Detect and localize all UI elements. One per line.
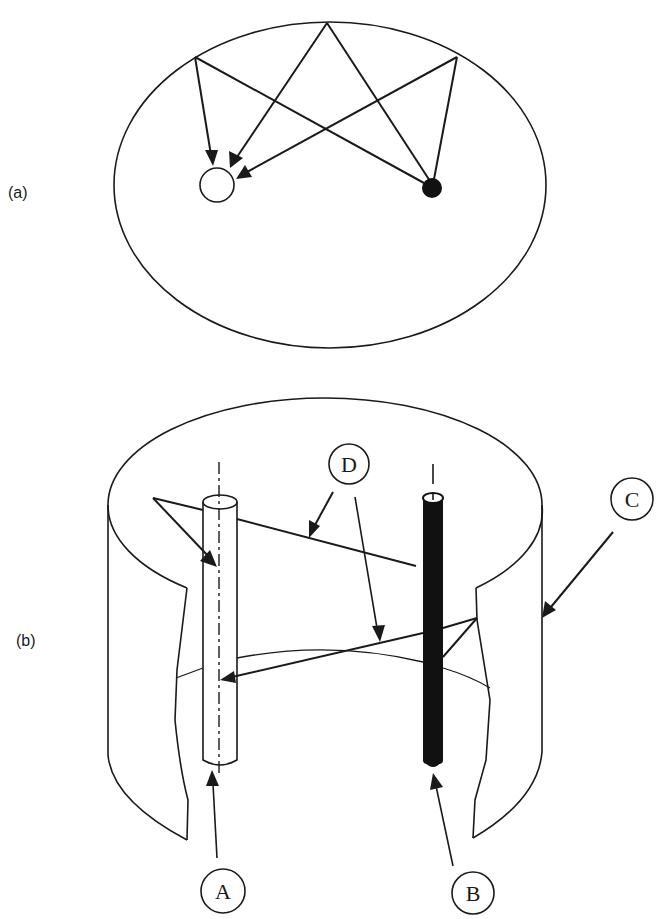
rod-a-white <box>203 462 237 775</box>
ray-lower-reflected-b <box>232 633 423 677</box>
arrowhead-icon <box>205 150 218 166</box>
cylinder-top-rim-left-lower <box>108 505 187 588</box>
arrowhead-icon <box>372 625 385 642</box>
ray-right-to-source <box>434 57 457 179</box>
ray-left-to-receiver <box>195 57 211 155</box>
cylinder-outer-wall-right <box>473 505 542 838</box>
interior-floor-arc <box>237 650 423 662</box>
arrowhead-icon <box>236 165 252 179</box>
callout-c-leader <box>551 532 613 607</box>
room-outline-ellipse <box>114 22 546 348</box>
arrowhead-icon <box>229 151 243 168</box>
callout-a-label: A <box>215 879 231 904</box>
arrowhead-icon <box>206 770 219 786</box>
panel-a-diagram <box>114 22 546 348</box>
rod-b-black <box>423 464 443 767</box>
cutaway-edge-left <box>175 588 188 840</box>
interior-floor-arc-right <box>443 668 490 688</box>
source-black-dot <box>422 178 442 198</box>
callout-a-leader <box>213 784 217 858</box>
ray-upper-reflected <box>153 498 210 558</box>
cylinder-top-rim-right-lower <box>476 505 542 588</box>
ray-right-to-receiver <box>247 57 457 172</box>
panel-b-diagram: D C A B <box>108 398 653 914</box>
cylinder-top-rim <box>108 398 542 505</box>
interior-floor-arc-left <box>176 668 203 678</box>
cylinder-outer-wall-left <box>108 505 187 840</box>
receiver-white-circle <box>200 168 234 202</box>
ray-upper-to-wall <box>153 498 203 510</box>
callout-b-label: B <box>466 881 481 906</box>
callout-c-label: C <box>625 487 640 512</box>
figure-canvas: D C A B <box>0 0 664 919</box>
ray-top-to-receiver <box>235 23 327 160</box>
callout-d-leader-2 <box>355 497 377 628</box>
callout-b-leader <box>436 786 453 866</box>
arrowhead-icon <box>309 520 320 538</box>
arrowhead-icon <box>220 671 236 683</box>
cutaway-edge-right <box>473 588 490 838</box>
arrowhead-icon <box>430 773 443 790</box>
callout-d-leader-1 <box>315 492 333 525</box>
ray-upper-segment <box>237 519 416 566</box>
callout-d-label: D <box>341 452 357 477</box>
